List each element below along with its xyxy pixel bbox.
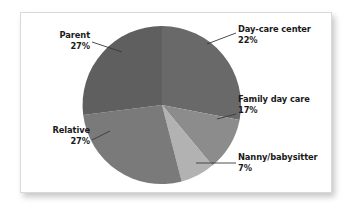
pie-label-parent: Parent 27% (24, 30, 90, 52)
pie-label-parent-value: 27% (24, 41, 90, 52)
pie-label-nanny-babysitter-text: Nanny/babysitter (238, 152, 318, 162)
pie-label-relative-value: 27% (14, 136, 90, 147)
pie-label-relative-text: Relative (52, 125, 90, 135)
pie-label-family-day-care-value: 17% (238, 105, 310, 116)
pie-label-nanny-babysitter: Nanny/babysitter 7% (238, 152, 318, 174)
pie-slice-day-care-center[interactable] (162, 26, 241, 120)
pie-label-parent-text: Parent (60, 30, 90, 40)
pie-slices (83, 26, 241, 184)
pie-label-relative: Relative 27% (14, 125, 90, 147)
pie-label-nanny-babysitter-value: 7% (238, 163, 318, 174)
pie-label-family-day-care: Family day care 17% (238, 94, 310, 116)
pie-slice-parent[interactable] (83, 26, 162, 115)
pie-label-day-care-center: Day-care center 22% (238, 24, 311, 46)
pie-label-day-care-center-value: 22% (238, 35, 311, 46)
leader-line-day-care-center (207, 33, 236, 44)
pie-label-day-care-center-text: Day-care center (238, 24, 311, 34)
pie-label-family-day-care-text: Family day care (238, 94, 310, 104)
pie-chart-figure: Parent 27% Relative 27% Day-care center … (0, 0, 351, 208)
